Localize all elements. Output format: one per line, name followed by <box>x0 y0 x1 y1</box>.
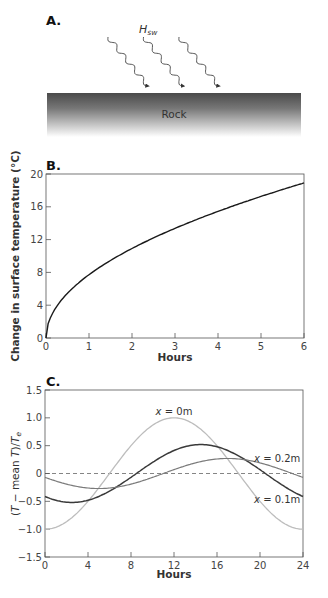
panel-b-chart: B. 0123456048121620 Hours Change in surf… <box>9 150 307 363</box>
panel-a-label: A. <box>46 13 61 28</box>
x-tick-label: 16 <box>211 560 224 571</box>
y-tick-label: 20 <box>30 169 43 180</box>
shortwave-radiation-arrows <box>108 37 219 86</box>
x-tick-label: 6 <box>301 341 307 352</box>
axis-ticks: 0123456048121620 <box>30 169 307 353</box>
y-tick-label: 12 <box>30 234 43 245</box>
rock-label: Rock <box>161 108 187 120</box>
radiation-arrow-icon <box>179 37 219 86</box>
y-tick-label: 1.0 <box>26 412 42 423</box>
x-tick-label: 24 <box>297 560 310 571</box>
x-tick-label: 1 <box>86 341 92 352</box>
panel-a: A. Hsw Rock <box>46 13 301 137</box>
temperature-curve <box>46 183 304 338</box>
figure: A. Hsw Rock B. 0123456048121620 Hours Ch… <box>0 0 328 598</box>
y-tick-label: 1.5 <box>26 385 42 396</box>
x-tick-label: 4 <box>215 341 221 352</box>
plot-frame <box>46 174 304 338</box>
y-tick-label: 8 <box>37 267 43 278</box>
x-tick-label: 4 <box>85 560 91 571</box>
series-label: x = 0m <box>155 406 193 417</box>
x-axis-title: Hours <box>158 351 193 363</box>
radiation-arrow-icon <box>108 37 148 86</box>
panel-b-label: B. <box>46 158 61 173</box>
series-label: x = 0.1m <box>253 494 300 505</box>
y-tick-label: −0.5 <box>18 496 42 507</box>
series-labels: x = 0mx = 0.2mx = 0.1m <box>155 406 301 506</box>
y-tick-label: −1.0 <box>18 524 42 535</box>
series-label: x = 0.2m <box>253 453 300 464</box>
x-tick-label: 0 <box>43 341 49 352</box>
radiation-arrow-icon <box>143 37 183 86</box>
y-tick-label: 0 <box>36 468 42 479</box>
x-tick-label: 0 <box>42 560 48 571</box>
y-axis-title: (T − mean T)/Te <box>9 432 23 517</box>
y-tick-label: 0 <box>37 333 43 344</box>
x-tick-label: 20 <box>254 560 267 571</box>
y-axis-title: Change in surface temperature (°C) <box>9 150 21 361</box>
x-axis-title: Hours <box>157 568 192 580</box>
y-tick-label: 4 <box>37 300 43 311</box>
flux-label: Hsw <box>139 23 158 37</box>
x-tick-label: 8 <box>128 560 134 571</box>
y-tick-label: −1.5 <box>18 552 42 563</box>
x-tick-label: 2 <box>129 341 135 352</box>
panel-c-chart: C. 04812162024−1.5−1.0−0.500.51.01.5 x =… <box>9 374 309 580</box>
y-tick-label: 16 <box>30 201 43 212</box>
x-tick-label: 5 <box>258 341 264 352</box>
panel-c-label: C. <box>46 374 60 389</box>
y-tick-label: 0.5 <box>26 440 42 451</box>
